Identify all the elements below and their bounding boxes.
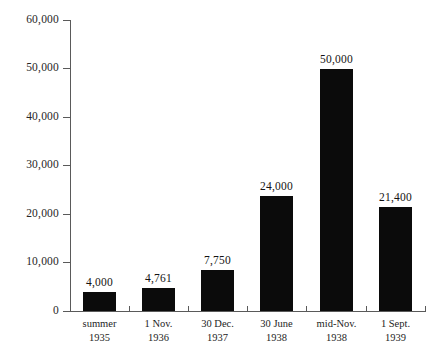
category-line-2: 1937 <box>185 331 250 345</box>
x-axis-tick <box>366 306 367 312</box>
bar-value-label: 7,750 <box>187 254 248 266</box>
x-axis-tick <box>188 306 189 312</box>
x-axis-category-label: summer 1935 <box>67 317 132 344</box>
y-axis-tick-label: 40,000 <box>0 110 59 122</box>
x-axis-category-label: 1 Sept. 1939 <box>363 317 428 344</box>
bar-value-label: 50,000 <box>306 53 367 65</box>
category-line-1: 30 Dec. <box>201 318 234 329</box>
bar-value-label: 4,761 <box>128 272 189 284</box>
bar-1-sept-1939[interactable] <box>379 207 412 311</box>
category-line-2: 1935 <box>67 331 132 345</box>
y-axis-tick <box>63 262 71 263</box>
category-line-2: 1938 <box>244 331 309 345</box>
category-line-1: 1 Sept. <box>381 318 410 329</box>
y-axis-tick <box>63 165 71 166</box>
y-axis-tick-label: 50,000 <box>0 61 59 73</box>
x-axis-category-label: 30 Dec. 1937 <box>185 317 250 344</box>
x-axis-line <box>70 311 426 312</box>
y-axis-tick-label: 30,000 <box>0 158 59 170</box>
x-axis-category-label: mid-Nov. 1938 <box>303 317 370 344</box>
category-line-2: 1939 <box>363 331 428 345</box>
category-line-2: 1938 <box>303 331 370 345</box>
x-axis-tick <box>247 306 248 312</box>
category-line-1: mid-Nov. <box>317 318 357 329</box>
bar-summer-1935[interactable] <box>83 292 116 311</box>
y-axis-tick-label: 0 <box>0 304 59 316</box>
x-axis-tick <box>129 306 130 312</box>
bar-mid-nov-1938[interactable] <box>320 69 353 311</box>
y-axis-tick-label: 60,000 <box>0 13 59 25</box>
y-axis-line <box>70 20 71 312</box>
bar-value-label: 24,000 <box>246 180 307 192</box>
y-axis-tick <box>63 68 71 69</box>
bar-1-nov-1936[interactable] <box>142 288 175 311</box>
bar-value-label: 21,400 <box>365 191 426 203</box>
y-axis-tick <box>63 117 71 118</box>
bar-value-label: 4,000 <box>69 276 130 288</box>
category-line-1: summer <box>83 318 117 329</box>
x-axis-category-label: 1 Nov. 1936 <box>126 317 191 344</box>
y-axis-tick <box>63 214 71 215</box>
category-line-1: 30 June <box>260 318 292 329</box>
x-axis-tick <box>306 306 307 312</box>
bar-30-june-1938[interactable] <box>260 196 293 311</box>
bar-chart: 60,000 50,000 40,000 30,000 20,000 10,00… <box>0 0 443 355</box>
x-axis-tick <box>70 306 71 312</box>
y-axis-tick-label: 20,000 <box>0 207 59 219</box>
x-axis-category-label: 30 June 1938 <box>244 317 309 344</box>
y-axis-tick <box>63 20 71 21</box>
bar-30-dec-1937[interactable] <box>201 270 234 311</box>
y-axis-tick-label: 10,000 <box>0 255 59 267</box>
category-line-1: 1 Nov. <box>145 318 173 329</box>
category-line-2: 1936 <box>126 331 191 345</box>
x-axis-tick <box>425 306 426 312</box>
